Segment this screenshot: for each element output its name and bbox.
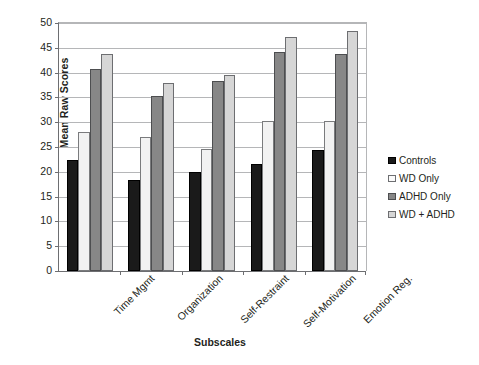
bar xyxy=(67,160,79,271)
bar xyxy=(101,54,113,271)
bar xyxy=(78,132,90,271)
x-tick-mark xyxy=(365,271,366,275)
legend-label: Controls xyxy=(399,155,436,166)
bar-group xyxy=(243,23,304,271)
bar xyxy=(312,150,324,271)
y-tick-label: 45 xyxy=(24,42,52,52)
y-tick-label: 25 xyxy=(24,141,52,151)
legend-swatch-icon xyxy=(388,211,396,219)
bar-group xyxy=(305,23,366,271)
plot-area xyxy=(58,22,367,271)
x-tick-label: Self-Restraint xyxy=(237,272,290,325)
y-tick-label: 35 xyxy=(24,91,52,101)
bar xyxy=(335,54,347,271)
bar xyxy=(224,75,236,271)
bar-group xyxy=(59,23,120,271)
bar xyxy=(262,121,274,271)
chart-legend: ControlsWD OnlyADHD OnlyWD + ADHD xyxy=(388,152,478,224)
y-tick-label: 10 xyxy=(24,215,52,225)
bar xyxy=(151,96,163,271)
y-tick-label: 50 xyxy=(24,17,52,27)
x-tick-label: Time Mgmt xyxy=(111,272,156,317)
legend-label: WD + ADHD xyxy=(399,209,455,220)
y-axis-tick-labels: 50454035302520151050 xyxy=(24,22,52,270)
legend-swatch-icon xyxy=(388,193,396,201)
y-tick-label: 40 xyxy=(24,67,52,77)
y-tick-label: 5 xyxy=(24,240,52,250)
bar xyxy=(274,52,286,271)
x-tick-label: Organization xyxy=(175,272,226,323)
y-tick-label: 0 xyxy=(24,265,52,275)
legend-item: Controls xyxy=(388,152,478,169)
bar xyxy=(285,37,297,271)
bar xyxy=(140,137,152,271)
bar xyxy=(128,180,140,271)
y-tick-label: 30 xyxy=(24,116,52,126)
x-tick-label: Self-Motivation xyxy=(301,272,359,330)
bar xyxy=(90,69,102,271)
legend-label: ADHD Only xyxy=(399,191,451,202)
bar-group xyxy=(182,23,243,271)
bar-groups xyxy=(59,23,366,271)
bar xyxy=(324,121,336,271)
legend-swatch-icon xyxy=(388,175,396,183)
bar xyxy=(189,172,201,271)
y-tick-label: 15 xyxy=(24,191,52,201)
legend-label: WD Only xyxy=(399,173,439,184)
bar-chart-figure: Mean Raw Scores 50454035302520151050 Tim… xyxy=(0,0,479,365)
legend-item: ADHD Only xyxy=(388,188,478,205)
bar xyxy=(251,164,263,271)
legend-item: WD + ADHD xyxy=(388,206,478,223)
x-axis-title: Subscales xyxy=(140,336,300,348)
bar xyxy=(163,83,175,271)
legend-swatch-icon xyxy=(388,157,396,165)
bar xyxy=(212,81,224,271)
bar-group xyxy=(120,23,181,271)
x-axis-tick-labels: Time MgmtOrganizationSelf-RestraintSelf-… xyxy=(58,272,365,328)
bar xyxy=(201,149,213,271)
legend-item: WD Only xyxy=(388,170,478,187)
x-tick-label: Emotion Reg. xyxy=(360,272,413,325)
y-tick-label: 20 xyxy=(24,166,52,176)
bar xyxy=(347,31,359,271)
